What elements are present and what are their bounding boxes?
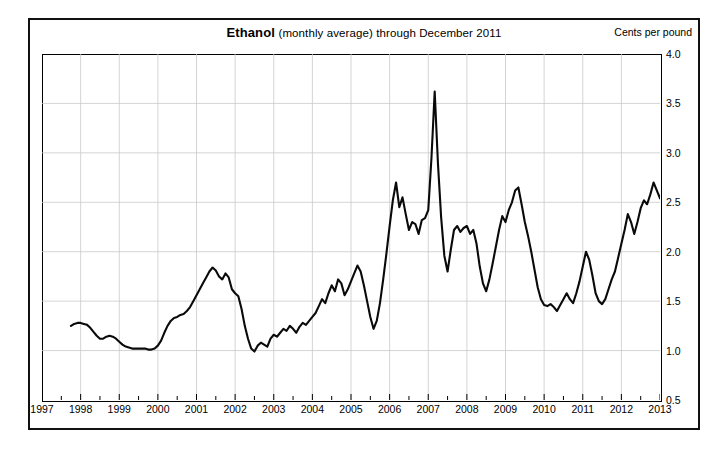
plot-canvas <box>42 54 660 400</box>
title-main: Ethanol <box>227 25 275 40</box>
axis-tick-group <box>42 394 660 400</box>
x-tick-label: 1998 <box>69 404 92 415</box>
x-axis: 1997199819992000200120022003200420052006… <box>0 404 719 426</box>
y-tick-label: 3.0 <box>666 148 681 159</box>
x-tick-label: 2010 <box>532 404 555 415</box>
x-tick-label: 2002 <box>223 404 246 415</box>
unit-label: Cents per pound <box>614 26 692 38</box>
x-tick-label: 2009 <box>494 404 517 415</box>
x-tick-label: 2007 <box>417 404 440 415</box>
chart-header: Ethanol (monthly average) through Decemb… <box>30 20 698 48</box>
y-tick-label: 1.5 <box>666 296 681 307</box>
x-tick-label: 1999 <box>108 404 131 415</box>
x-tick-label: 2004 <box>301 404 324 415</box>
x-tick-label: 2012 <box>610 404 633 415</box>
series-line-ethanol <box>71 92 660 352</box>
y-tick-label: 2.0 <box>666 247 681 258</box>
y-tick-label: 2.5 <box>666 197 681 208</box>
x-tick-label: 2013 <box>648 404 671 415</box>
ethanol-price-chart: Ethanol (monthly average) through Decemb… <box>0 0 719 455</box>
y-tick-label: 3.5 <box>666 98 681 109</box>
x-tick-label: 2008 <box>455 404 478 415</box>
y-tick-label: 4.0 <box>666 49 681 60</box>
title-subtext: (monthly average) through December 2011 <box>279 27 502 39</box>
x-tick-label: 2006 <box>378 404 401 415</box>
x-tick-label: 2005 <box>339 404 362 415</box>
page-title: Ethanol (monthly average) through Decemb… <box>30 25 698 40</box>
x-tick-label: 2011 <box>571 404 594 415</box>
y-tick-label: 1.0 <box>666 346 681 357</box>
x-tick-label: 1997 <box>30 404 53 415</box>
x-tick-label: 2003 <box>262 404 285 415</box>
x-tick-label: 2000 <box>146 404 169 415</box>
y-axis: 4.03.53.02.52.01.51.00.5 <box>666 54 706 400</box>
x-tick-label: 2001 <box>185 404 208 415</box>
